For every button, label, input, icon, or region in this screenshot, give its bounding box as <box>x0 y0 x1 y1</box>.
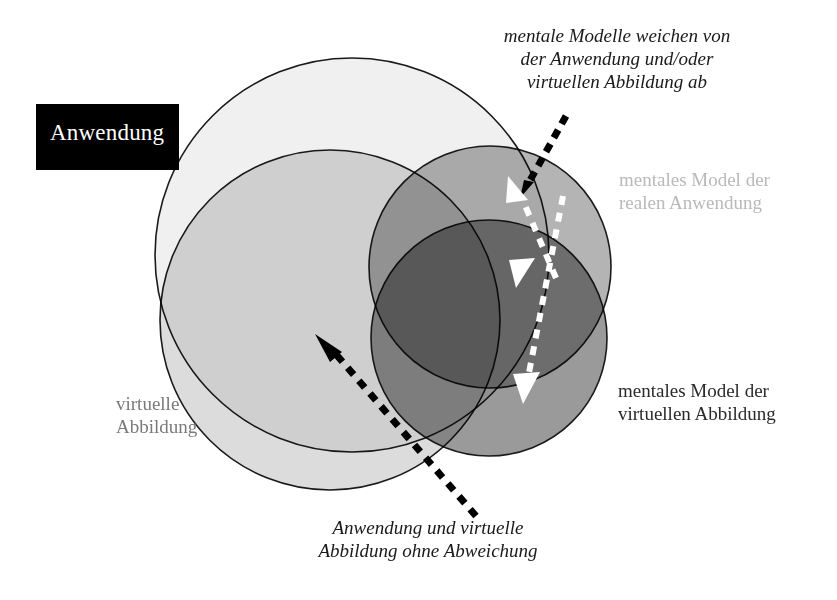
mental-model-real-application-label: mentales Model der realen Anwendung <box>619 168 770 214</box>
deviation-note-text: mentale Modelle weichen von der Anwendun… <box>447 24 787 94</box>
anwendung-badge-label: Anwendung <box>50 120 164 146</box>
mental-model-virtual-representation-label: mentales Model der virtuellen Abbildung <box>618 379 776 425</box>
anwendung-badge: Anwendung <box>36 104 179 170</box>
virtual-representation-label: virtuelle Abbildung <box>116 392 197 438</box>
mentales-model-virtuelle-abbildung-circle <box>371 220 607 456</box>
agreement-note-text: Anwendung und virtuelle Abbildung ohne A… <box>258 516 598 562</box>
diagram-root: Anwendung mentale Modelle weichen von de… <box>0 0 837 600</box>
